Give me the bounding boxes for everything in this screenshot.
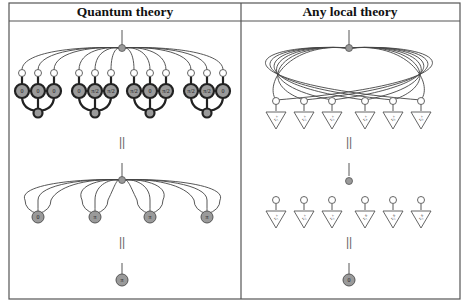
diagram: Quantum theory Any local theory 0000π/2π… (0, 0, 462, 305)
phase-label: π (93, 214, 96, 220)
local-party: r₃ᴬ (322, 98, 342, 130)
measurement-node (51, 70, 58, 77)
measurement-node (390, 98, 397, 105)
measurement-node (131, 70, 138, 77)
right-panel-title: Any local theory (302, 4, 397, 19)
phase-label: π/2 (107, 88, 115, 94)
quantum-middle-network: 0πππ (24, 163, 220, 223)
outer-frame (9, 3, 460, 299)
local-party: r₄ᴬ (355, 98, 375, 130)
measurement-node (204, 70, 211, 77)
join-node (34, 109, 43, 118)
phase-label: π (205, 214, 208, 220)
join-node (146, 109, 155, 118)
phase-label: 0 (37, 214, 40, 220)
phase-label: 0 (37, 88, 40, 94)
phase-label: π/2 (187, 88, 195, 94)
phase-label: π/2 (162, 88, 170, 94)
result-label: 0 (348, 277, 351, 283)
phase-label: π/2 (91, 88, 99, 94)
qubit-group: π/2π/20 (184, 70, 230, 118)
phase-label: 0 (78, 88, 81, 94)
local-party: r₁ᴮ (355, 197, 375, 229)
measurement-node (273, 197, 280, 204)
local-party: r₁ᴬ (266, 98, 286, 130)
local-party: r₆ᴬ (411, 98, 431, 130)
phase-label: 0 (149, 88, 152, 94)
phase-label: 0 (21, 88, 24, 94)
local-top-network: r₁ᴬr₂ᴬr₃ᴬr₄ᴬr₅ᴬr₆ᴬ (265, 30, 432, 129)
join-node (91, 109, 100, 118)
measurement-node (92, 70, 99, 77)
local-party: r₃ᴬ (322, 197, 342, 229)
measurement-node (188, 70, 195, 77)
result-label: π (120, 277, 123, 283)
phase-label: 0 (53, 88, 56, 94)
quantum-result: π (116, 263, 128, 286)
local-middle: r₁ᴬr₂ᴬr₃ᴬr₁ᴮr₂ᴮr₃ᴮ (266, 163, 431, 228)
equals-sign: || (119, 135, 125, 149)
measurement-node (301, 98, 308, 105)
phase-label: 0 (222, 88, 225, 94)
equals-sign: || (119, 235, 125, 249)
measurement-node (390, 197, 397, 204)
measurement-node (362, 98, 369, 105)
measurement-node (418, 98, 425, 105)
source-node (346, 178, 353, 185)
measurement-node (108, 70, 115, 77)
qubit-group: π/20π/2 (127, 70, 173, 118)
join-node (203, 109, 212, 118)
local-party: r₂ᴬ (294, 197, 314, 229)
qubit-group: 000 (15, 70, 61, 118)
measurement-node (418, 197, 425, 204)
local-party: r₂ᴮ (383, 197, 403, 229)
local-party: r₅ᴬ (383, 98, 403, 130)
source-node (346, 45, 353, 52)
measurement-node (220, 70, 227, 77)
measurement-node (301, 197, 308, 204)
measurement-node (147, 70, 154, 77)
quantum-top-network: 0000π/2π/2π/20π/2π/2π/20 (15, 30, 230, 118)
measurement-node (19, 70, 26, 77)
measurement-node (329, 197, 336, 204)
left-panel-title: Quantum theory (77, 4, 174, 19)
measurement-node (329, 98, 336, 105)
measurement-node (163, 70, 170, 77)
phase-label: π/2 (203, 88, 211, 94)
local-party: r₂ᴬ (294, 98, 314, 130)
phase-label: π (148, 214, 151, 220)
source-node (119, 45, 126, 52)
local-result: 0 (343, 263, 355, 286)
local-party: r₁ᴬ (266, 197, 286, 229)
local-party: r₃ᴮ (411, 197, 431, 229)
qubit-group: 0π/2π/2 (72, 70, 118, 118)
measurement-node (362, 197, 369, 204)
source-node (119, 177, 126, 184)
equals-sign: || (346, 135, 352, 149)
equals-sign: || (346, 235, 352, 249)
measurement-node (76, 70, 83, 77)
measurement-node (35, 70, 42, 77)
phase-label: π/2 (130, 88, 138, 94)
measurement-node (273, 98, 280, 105)
